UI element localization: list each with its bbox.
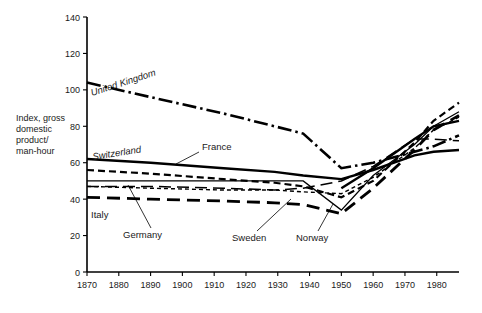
series-label-norway: Norway — [296, 232, 328, 243]
x-tick-label: 1950 — [331, 280, 351, 290]
series-label-sweden: Sweden — [232, 232, 266, 243]
y-tick-label: 60 — [70, 158, 80, 168]
x-tick-label: 1870 — [77, 280, 97, 290]
y-tick-label: 100 — [65, 85, 80, 95]
y-tick-label: 0 — [75, 268, 80, 278]
y-axis-title-line: Index, gross — [16, 113, 66, 123]
series-labels: United Kingdom Switzerland France German… — [89, 67, 328, 243]
chart-container: 020406080100120140 187018801890190019101… — [0, 0, 482, 313]
series-line-france — [87, 103, 459, 198]
y-axis-title: Index, grossdomesticproduct/man-hour — [16, 113, 66, 156]
series-line-united-kingdom — [87, 83, 459, 169]
x-tick-label: 1980 — [427, 280, 447, 290]
series-label-germany: Germany — [123, 229, 162, 240]
y-axis-title-line: product/ — [16, 135, 49, 145]
x-tick-label: 1900 — [172, 280, 192, 290]
x-tick-label: 1960 — [363, 280, 383, 290]
series-line-italy — [87, 115, 459, 213]
series-layer — [87, 83, 459, 214]
x-tick-label: 1890 — [141, 280, 161, 290]
y-axis-title-line: domestic — [16, 124, 53, 134]
y-axis-tick-labels: 020406080100120140 — [65, 13, 80, 278]
x-tick-label: 1910 — [204, 280, 224, 290]
x-tick-label: 1930 — [268, 280, 288, 290]
y-tick-label: 80 — [70, 122, 80, 132]
y-tick-label: 40 — [70, 195, 80, 205]
y-tick-label: 140 — [65, 13, 80, 23]
x-axis-tick-labels: 1870188018901900191019201930194019501960… — [77, 280, 447, 290]
series-label-switzerland: Switzerland — [92, 143, 143, 162]
x-tick-label: 1940 — [300, 280, 320, 290]
productivity-line-chart: 020406080100120140 187018801890190019101… — [0, 0, 482, 313]
x-tick-label: 1970 — [395, 280, 415, 290]
y-axis-title-line: man-hour — [16, 146, 55, 156]
x-tick-label: 1880 — [109, 280, 129, 290]
series-label-united-kingdom: United Kingdom — [89, 67, 157, 98]
x-tick-label: 1920 — [236, 280, 256, 290]
leader-line-germany — [128, 185, 151, 228]
leader-line-norway — [318, 204, 333, 231]
y-tick-label: 20 — [70, 231, 80, 241]
leader-line-france — [176, 152, 199, 164]
series-label-france: France — [202, 141, 232, 152]
series-label-italy: Italy — [91, 209, 109, 220]
y-tick-label: 120 — [65, 49, 80, 59]
